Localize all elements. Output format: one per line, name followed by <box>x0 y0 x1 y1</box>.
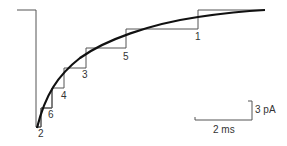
scale-bar <box>195 101 252 120</box>
step-label-1: 1 <box>195 32 201 42</box>
step-label-6: 6 <box>48 110 54 120</box>
step-label-2: 2 <box>38 129 44 139</box>
step-label-3: 3 <box>82 70 88 80</box>
scale-bar-horizontal-label: 2 ms <box>213 125 235 135</box>
scale-bar-vertical-label: 3 pA <box>255 105 276 115</box>
staircase-trace <box>17 10 265 127</box>
trace-figure <box>0 0 287 146</box>
step-label-4: 4 <box>61 91 67 101</box>
fit-curve <box>37 10 265 128</box>
step-label-5: 5 <box>123 52 129 62</box>
